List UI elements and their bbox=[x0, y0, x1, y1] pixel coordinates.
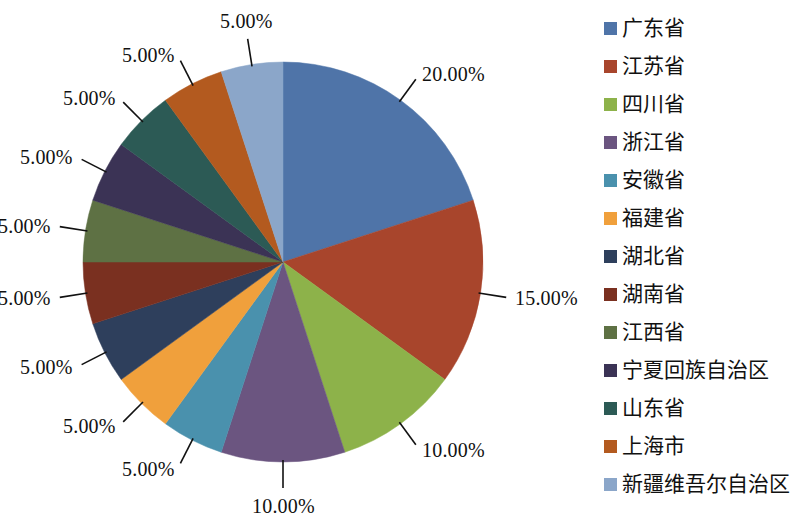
legend-item-list: 广东省江苏省四川省浙江省安徽省福建省湖北省湖南省江西省宁夏回族自治区山东省上海市… bbox=[604, 9, 802, 503]
pie-slice-group bbox=[83, 62, 483, 462]
data-label-leader-line bbox=[123, 402, 143, 422]
legend-item-label: 湖南省 bbox=[622, 284, 685, 305]
slice-percent-label: 5.00% bbox=[20, 357, 73, 377]
legend-color-swatch-icon bbox=[604, 174, 617, 187]
legend-item-label: 新疆维吾尔自治区 bbox=[622, 474, 790, 495]
slice-percent-label: 5.00% bbox=[122, 459, 175, 479]
pie-plot-area: 20.00%15.00%10.00%10.00%5.00%5.00%5.00%5… bbox=[0, 0, 590, 517]
legend-item[interactable]: 广东省 bbox=[604, 9, 802, 47]
legend-color-swatch-icon bbox=[604, 22, 617, 35]
legend-color-swatch-icon bbox=[604, 60, 617, 73]
data-label-leader-line bbox=[399, 79, 415, 102]
legend-color-swatch-icon bbox=[604, 136, 617, 149]
legend-item-label: 安徽省 bbox=[622, 170, 685, 191]
legend-item-label: 湖北省 bbox=[622, 246, 685, 267]
legend-item-label: 宁夏回族自治区 bbox=[622, 360, 769, 381]
legend-item-label: 江苏省 bbox=[622, 56, 685, 77]
data-label-leader-line bbox=[180, 438, 193, 463]
slice-percent-label: 5.00% bbox=[63, 88, 116, 108]
slice-percent-label: 5.00% bbox=[0, 288, 51, 308]
legend-item[interactable]: 安徽省 bbox=[604, 161, 802, 199]
legend-color-swatch-icon bbox=[604, 326, 617, 339]
legend-color-swatch-icon bbox=[604, 98, 617, 111]
legend-color-swatch-icon bbox=[604, 212, 617, 225]
legend-item-label: 江西省 bbox=[622, 322, 685, 343]
legend-item-label: 广东省 bbox=[622, 18, 685, 39]
legend-item-label: 四川省 bbox=[622, 94, 685, 115]
legend-item-label: 山东省 bbox=[622, 398, 685, 419]
legend-item-label: 福建省 bbox=[622, 208, 685, 229]
data-label-leader-line bbox=[60, 227, 88, 231]
legend-item[interactable]: 宁夏回族自治区 bbox=[604, 351, 802, 389]
data-label-leader-line bbox=[479, 293, 507, 297]
legend-item[interactable]: 山东省 bbox=[604, 389, 802, 427]
legend-color-swatch-icon bbox=[604, 364, 617, 377]
data-label-leader-line bbox=[399, 422, 415, 445]
legend-color-swatch-icon bbox=[604, 440, 617, 453]
slice-percent-label: 20.00% bbox=[422, 64, 485, 84]
legend-item-label: 浙江省 bbox=[622, 132, 685, 153]
legend-item[interactable]: 福建省 bbox=[604, 199, 802, 237]
legend-item[interactable]: 新疆维吾尔自治区 bbox=[604, 465, 802, 503]
legend-item[interactable]: 浙江省 bbox=[604, 123, 802, 161]
slice-percent-label: 15.00% bbox=[515, 288, 578, 308]
slice-percent-label: 10.00% bbox=[422, 440, 485, 460]
legend-item[interactable]: 四川省 bbox=[604, 85, 802, 123]
legend-item[interactable]: 上海市 bbox=[604, 427, 802, 465]
legend-item[interactable]: 湖南省 bbox=[604, 275, 802, 313]
chart-legend: 广东省江苏省四川省浙江省安徽省福建省湖北省湖南省江西省宁夏回族自治区山东省上海市… bbox=[604, 9, 802, 503]
slice-percent-label: 10.00% bbox=[252, 496, 315, 516]
legend-item[interactable]: 江西省 bbox=[604, 313, 802, 351]
slice-percent-label: 5.00% bbox=[63, 416, 116, 436]
data-label-leader-line bbox=[60, 293, 88, 297]
data-label-leader-line bbox=[82, 352, 107, 365]
legend-color-swatch-icon bbox=[604, 402, 617, 415]
data-label-leader-line bbox=[82, 159, 107, 172]
slice-percent-label: 5.00% bbox=[0, 216, 51, 236]
legend-item-label: 上海市 bbox=[622, 436, 685, 457]
legend-item[interactable]: 江苏省 bbox=[604, 47, 802, 85]
pie-svg bbox=[0, 0, 590, 517]
pie-chart-figure: 20.00%15.00%10.00%10.00%5.00%5.00%5.00%5… bbox=[0, 0, 802, 517]
data-label-leader-line bbox=[180, 61, 193, 86]
legend-color-swatch-icon bbox=[604, 288, 617, 301]
slice-percent-label: 5.00% bbox=[20, 147, 73, 167]
legend-item[interactable]: 湖北省 bbox=[604, 237, 802, 275]
legend-color-swatch-icon bbox=[604, 478, 617, 491]
data-label-leader-line bbox=[248, 39, 252, 67]
slice-percent-label: 5.00% bbox=[122, 45, 175, 65]
slice-percent-label: 5.00% bbox=[220, 11, 273, 31]
data-label-leader-line bbox=[123, 102, 143, 122]
legend-color-swatch-icon bbox=[604, 250, 617, 263]
